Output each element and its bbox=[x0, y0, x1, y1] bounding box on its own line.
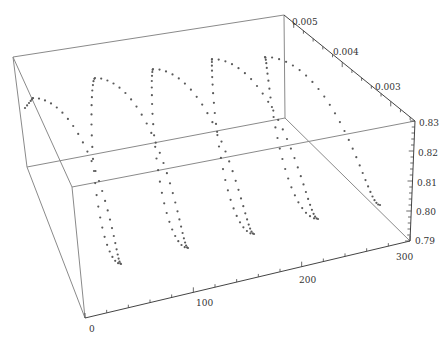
data-point bbox=[305, 212, 307, 214]
z-tick-label: 0.79 bbox=[415, 236, 435, 246]
data-point bbox=[180, 226, 182, 228]
data-point bbox=[348, 139, 350, 141]
data-point bbox=[307, 198, 309, 200]
data-point bbox=[222, 168, 224, 170]
data-point bbox=[159, 152, 161, 154]
data-point bbox=[299, 69, 301, 71]
data-point bbox=[290, 148, 292, 150]
data-point bbox=[292, 64, 294, 66]
data-point bbox=[309, 215, 311, 217]
data-point bbox=[240, 197, 242, 199]
data-point bbox=[28, 102, 30, 104]
data-point bbox=[297, 166, 299, 168]
data-point bbox=[236, 215, 238, 217]
data-point bbox=[235, 180, 237, 182]
data-point bbox=[176, 210, 178, 212]
data-point bbox=[151, 71, 153, 73]
data-point bbox=[56, 106, 58, 108]
data-point bbox=[152, 123, 154, 125]
data-point bbox=[50, 102, 52, 104]
data-point bbox=[177, 240, 179, 242]
data-point bbox=[215, 123, 217, 125]
data-point bbox=[114, 242, 116, 244]
data-point bbox=[232, 170, 234, 172]
data-point bbox=[379, 204, 381, 206]
data-point bbox=[187, 247, 189, 249]
data-point bbox=[266, 67, 268, 69]
data-point bbox=[246, 218, 248, 220]
data-point bbox=[171, 228, 173, 230]
data-point bbox=[92, 158, 94, 160]
data-point bbox=[237, 67, 239, 69]
data-point bbox=[117, 253, 119, 255]
data-point bbox=[297, 201, 299, 203]
data-point bbox=[311, 209, 313, 211]
data-point bbox=[96, 194, 98, 196]
data-point bbox=[359, 164, 361, 166]
data-point bbox=[301, 207, 303, 209]
data-point bbox=[373, 199, 375, 201]
3d-scatter-plot[interactable]: 0.005 0.004 0.003 0.83 0.82 0.81 0.80 0.… bbox=[0, 0, 447, 344]
data-point bbox=[159, 181, 161, 183]
data-point bbox=[329, 104, 331, 106]
data-point bbox=[111, 256, 113, 258]
data-point bbox=[211, 61, 213, 63]
data-point bbox=[362, 172, 364, 174]
data-point bbox=[256, 85, 258, 87]
data-point bbox=[212, 92, 214, 94]
data-point bbox=[211, 76, 213, 78]
data-point bbox=[91, 89, 93, 91]
data-point bbox=[38, 98, 40, 100]
data-point bbox=[213, 102, 215, 104]
data-point bbox=[169, 182, 171, 184]
data-point bbox=[246, 230, 248, 232]
data-point bbox=[375, 202, 377, 204]
data-point bbox=[155, 157, 157, 159]
x-tick-label: 200 bbox=[299, 275, 316, 285]
data-point bbox=[130, 98, 132, 100]
data-point bbox=[282, 128, 284, 130]
data-point bbox=[211, 58, 213, 60]
data-point bbox=[180, 244, 182, 246]
data-point bbox=[183, 237, 185, 239]
data-point bbox=[151, 103, 153, 105]
data-point bbox=[216, 134, 218, 136]
data-point bbox=[214, 112, 216, 114]
y-tick-label: 0.004 bbox=[333, 47, 359, 57]
data-point bbox=[277, 119, 279, 121]
data-point bbox=[190, 89, 192, 91]
data-point bbox=[268, 88, 270, 90]
data-point bbox=[135, 106, 137, 108]
data-point bbox=[146, 122, 148, 124]
data-point bbox=[262, 93, 264, 95]
data-point bbox=[343, 130, 345, 132]
data-point bbox=[112, 82, 114, 84]
data-point bbox=[231, 63, 233, 65]
data-point bbox=[101, 227, 103, 229]
data-point bbox=[201, 104, 203, 106]
data-point bbox=[224, 179, 226, 181]
data-point bbox=[281, 158, 283, 160]
data-point bbox=[106, 244, 108, 246]
data-point bbox=[99, 216, 101, 218]
data-point bbox=[265, 59, 267, 61]
data-point bbox=[120, 263, 122, 265]
data-point bbox=[114, 260, 116, 262]
x-tick-label: 300 bbox=[396, 252, 413, 262]
data-point bbox=[178, 77, 180, 79]
data-point bbox=[111, 227, 113, 229]
data-point bbox=[273, 116, 275, 118]
data-point bbox=[151, 86, 153, 88]
data-point bbox=[162, 162, 164, 164]
data-point bbox=[116, 248, 118, 250]
data-point bbox=[152, 68, 154, 70]
data-point bbox=[97, 206, 99, 208]
data-point bbox=[305, 75, 307, 77]
data-point bbox=[211, 70, 213, 72]
data-point bbox=[284, 168, 286, 170]
data-point bbox=[92, 80, 94, 82]
data-point bbox=[313, 213, 315, 215]
data-point bbox=[150, 132, 152, 134]
y-axis: 0.005 0.004 0.003 bbox=[284, 15, 415, 121]
data-point bbox=[216, 131, 218, 133]
